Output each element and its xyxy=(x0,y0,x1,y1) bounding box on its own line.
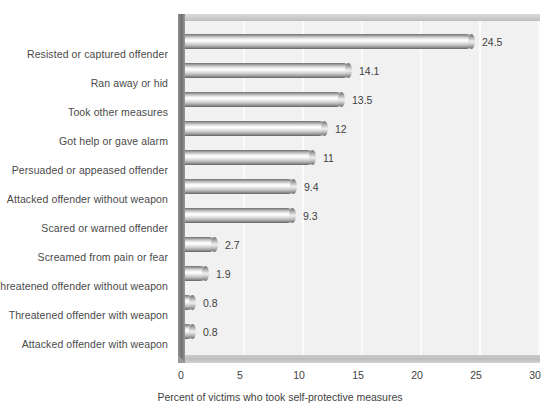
category-label-10: Attacked offender with weapon xyxy=(22,338,168,350)
bar-cap xyxy=(309,150,316,165)
bar-8 xyxy=(185,266,208,281)
bar-value-10: 0.8 xyxy=(203,326,218,338)
x-axis-title: Percent of victims who took self-protect… xyxy=(0,391,560,403)
bar-value-6: 9.3 xyxy=(303,210,318,222)
x-tick-0: 0 xyxy=(178,369,184,381)
bar-value-3: 12 xyxy=(335,123,347,135)
category-label-7: Screamed from pain or fear xyxy=(38,251,168,263)
x-tick-5: 25 xyxy=(470,369,482,381)
plot-top-edge xyxy=(184,14,540,21)
bar-3 xyxy=(185,121,327,136)
category-label-1: Ran away or hid xyxy=(91,77,168,89)
bar-cap xyxy=(345,63,352,78)
bar-cap xyxy=(289,208,296,223)
bar-value-2: 13.5 xyxy=(352,94,372,106)
category-label-3: Got help or gave alarm xyxy=(59,135,168,147)
bar-2 xyxy=(185,92,344,107)
bar-cap xyxy=(468,34,475,49)
bar-cap xyxy=(189,324,196,339)
category-axis-labels: Resisted or captured offender Ran away o… xyxy=(0,14,174,356)
x-tick-6: 30 xyxy=(529,369,541,381)
bar-cap xyxy=(338,92,345,107)
x-tick-4: 20 xyxy=(411,369,423,381)
x-tick-1: 5 xyxy=(237,369,243,381)
bar-value-4: 11 xyxy=(323,152,334,164)
category-label-6: Scared or warned offender xyxy=(41,222,168,234)
category-label-4: Persuaded or appeased offender xyxy=(12,164,168,176)
bar-chart: Resisted or captured offender Ran away o… xyxy=(0,0,560,417)
bar-value-5: 9.4 xyxy=(304,181,319,193)
bar-value-9: 0.8 xyxy=(203,297,218,309)
bar-9 xyxy=(185,295,195,310)
bars-layer: 24.5 14.1 13.5 12 11 9.4 9.3 2.7 1.9 0.8… xyxy=(185,21,540,355)
category-label-5: Attacked offender without weapon xyxy=(7,193,168,205)
category-label-8: Threatened offender without weapon xyxy=(0,280,168,292)
bar-5 xyxy=(185,179,296,194)
bar-value-1: 14.1 xyxy=(359,65,379,77)
plot-area: 24.5 14.1 13.5 12 11 9.4 9.3 2.7 1.9 0.8… xyxy=(178,14,540,364)
bar-1 xyxy=(185,63,351,78)
category-label-9: Threatened offender with weapon xyxy=(9,309,168,321)
plot-left-wall xyxy=(178,14,185,363)
bar-cap xyxy=(211,237,218,252)
bar-4 xyxy=(185,150,315,165)
bar-value-7: 2.7 xyxy=(225,239,240,251)
bar-value-0: 24.5 xyxy=(482,36,502,48)
bar-6 xyxy=(185,208,295,223)
bar-7 xyxy=(185,237,217,252)
category-label-2: Took other measures xyxy=(68,106,168,118)
x-tick-2: 10 xyxy=(293,369,305,381)
bar-10 xyxy=(185,324,195,339)
plot-floor xyxy=(185,355,540,363)
x-tick-3: 15 xyxy=(352,369,364,381)
category-label-0: Resisted or captured offender xyxy=(27,48,168,60)
bar-cap xyxy=(189,295,196,310)
bar-cap xyxy=(321,121,328,136)
bar-value-8: 1.9 xyxy=(216,268,231,280)
bar-cap xyxy=(202,266,209,281)
bar-0 xyxy=(185,34,474,49)
bar-cap xyxy=(290,179,297,194)
